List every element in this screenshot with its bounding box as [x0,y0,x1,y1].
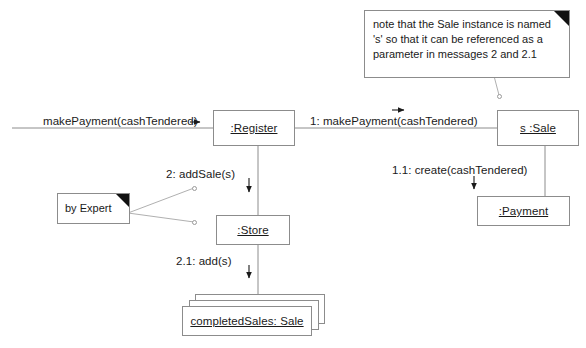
note-fold-icon [554,11,569,26]
message-label-1: 1: makePayment(cashTendered) [310,115,478,127]
note-sale-line-3: parameter in messages 2 and 2.1 [373,47,561,62]
note-sale-line-1: note that the Sale instance is named [373,17,561,32]
object-sale-label: s :Sale [520,122,556,134]
object-payment-label: :Payment [499,205,548,217]
message-label-found: makePayment(cashTendered) [43,115,198,127]
note-leader-sale [494,76,499,95]
note-by-expert: by Expert [57,193,130,224]
uml-communication-diagram: note that the Sale instance is named 's'… [0,0,586,348]
message-label-2-1: 2.1: add(s) [176,255,232,267]
message-label-1-1: 1.1: create(cashTendered) [392,164,528,176]
object-register[interactable]: :Register [213,110,295,146]
note-leader-expert-upper [128,188,194,213]
note-sale-naming: note that the Sale instance is named 's'… [364,10,570,78]
object-completed-sales-label: completedSales: Sale [190,315,303,327]
object-payment[interactable]: :Payment [477,196,570,226]
object-sale[interactable]: s :Sale [497,110,579,146]
note-leader-expert-lower [128,213,194,222]
note-sale-line-2: 's' so that it can be referenced as a [373,32,561,47]
object-register-label: :Register [231,122,278,134]
note-by-expert-line-1: by Expert [65,201,111,216]
note-sale-naming-text: note that the Sale instance is named 's'… [365,11,569,77]
note-anchor-dot-expert-upper [192,186,197,191]
message-label-2: 2: addSale(s) [166,168,235,180]
object-store-label: :Store [237,224,268,236]
note-anchor-dot-sale [497,94,502,99]
object-completed-sales[interactable]: completedSales: Sale [182,306,312,336]
note-anchor-dot-expert-lower [192,220,197,225]
object-store[interactable]: :Store [216,215,290,245]
note-fold-icon [116,194,129,207]
